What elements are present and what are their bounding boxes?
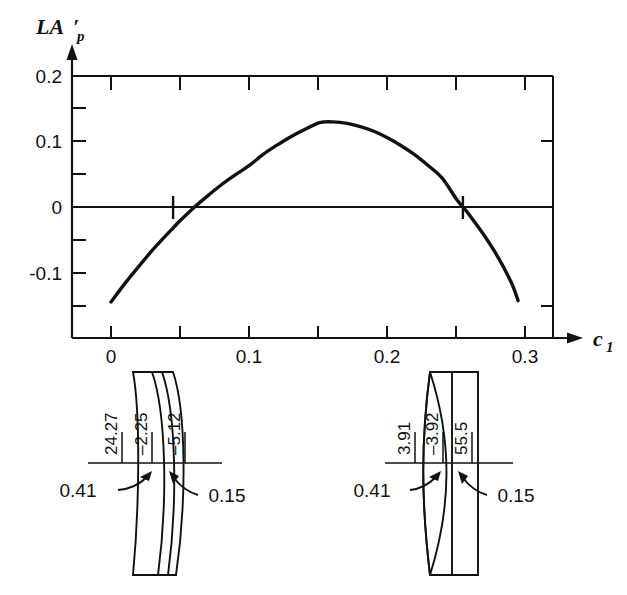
- y-tick-label-0: 0: [51, 197, 62, 218]
- y-axis-arrowhead: [67, 44, 78, 60]
- x-tick-labels: 0 0.1 0.2 0.3: [106, 346, 539, 367]
- y-tick-label--0.1: -0.1: [29, 263, 62, 284]
- y-axis-title: LA ′ p: [35, 14, 85, 44]
- right-lens-element-1: [423, 372, 478, 575]
- x-ticks: [111, 326, 525, 338]
- right-lens-label--3.92: –3.92: [423, 412, 442, 455]
- right-lens-label-55.5: 55.5: [452, 422, 471, 455]
- right-lens-thickness-1-label: 0.41: [354, 480, 391, 501]
- y-tick-label-0.1: 0.1: [36, 131, 62, 152]
- right-lens-thickness-2-label: 0.15: [498, 485, 535, 506]
- y-ticks-right: [541, 141, 553, 306]
- y-tick-labels: 0.2 0.1 0 -0.1: [29, 66, 62, 284]
- right-lens-label-3.91: 3.91: [395, 422, 414, 455]
- x-axis-title: c 1: [593, 326, 614, 355]
- x-tick-label-0.3: 0.3: [512, 346, 538, 367]
- right-lens-diagram: 3.91 –3.92 55.5 0.41 0.15: [354, 372, 535, 575]
- left-lens-thickness-2-label: 0.15: [209, 485, 246, 506]
- left-lens-label--2.25: –2.25: [132, 412, 151, 455]
- x-axis-title-main: c: [593, 326, 603, 351]
- x-axis-title-subscript: 1: [606, 339, 614, 355]
- plot-frame: [67, 44, 584, 344]
- left-lens-thickness-1-label: 0.41: [60, 480, 97, 501]
- x-ticks-top: [111, 76, 525, 90]
- x-axis-arrowhead: [567, 333, 583, 344]
- left-lens-label-24.27: 24.27: [102, 412, 121, 455]
- x-tick-label-0.2: 0.2: [374, 346, 400, 367]
- left-lens-diagram: 24.27 –2.25 –5.12 0.41 0.15: [60, 372, 246, 575]
- y-axis-title-main: LA: [35, 14, 64, 39]
- figure-svg: LA ′ p c 1 0.2 0.1 0 -0.1 0 0.1 0.2 0.3: [0, 0, 627, 595]
- x-tick-label-0: 0: [106, 346, 117, 367]
- y-ticks: [72, 76, 86, 306]
- left-lens-label--5.12: –5.12: [165, 412, 184, 455]
- x-tick-label-0.1: 0.1: [236, 346, 262, 367]
- y-axis-title-subscript: p: [75, 28, 85, 44]
- y-tick-label-0.2: 0.2: [36, 66, 62, 87]
- optical-figure: LA ′ p c 1 0.2 0.1 0 -0.1 0 0.1 0.2 0.3: [0, 0, 627, 595]
